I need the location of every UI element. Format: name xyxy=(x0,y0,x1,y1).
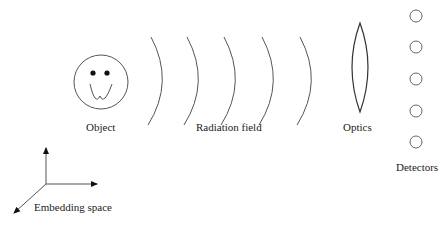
detectors-label: Detectors xyxy=(396,161,438,173)
smiley-face-icon xyxy=(74,55,128,109)
detector-icon xyxy=(410,136,422,148)
object-label: Object xyxy=(86,121,115,133)
detector-icon xyxy=(410,73,422,85)
lens-icon xyxy=(352,23,368,112)
detector-icon xyxy=(410,105,422,117)
optics-label: Optics xyxy=(343,121,372,133)
detector-icon xyxy=(410,10,422,22)
detector-icon xyxy=(410,41,422,53)
diagram-canvas xyxy=(0,0,445,226)
radiation-wavefronts-icon xyxy=(148,37,311,125)
embedding-space-label: Embedding space xyxy=(34,201,112,213)
radiation-field-label: Radiation field xyxy=(196,121,262,133)
detector-array-icon xyxy=(410,10,422,148)
